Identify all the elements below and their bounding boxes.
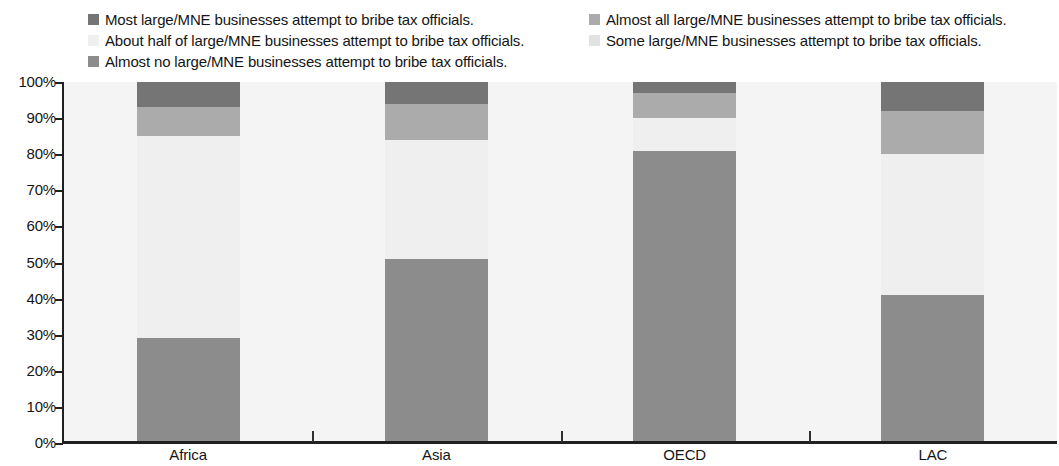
legend-column-left: Most large/MNE businesses attempt to bri… (88, 9, 524, 72)
y-axis-tick-label: 40% (0, 291, 56, 306)
bar-segment-most[interactable] (633, 82, 736, 93)
bar-segment-almost_all[interactable] (881, 111, 984, 154)
bar-segment-about_half[interactable] (881, 154, 984, 295)
legend-item-label: Almost no large/MNE businesses attempt t… (105, 51, 507, 72)
bar-group-oecd[interactable] (633, 82, 736, 443)
legend-swatch-icon-about_half (88, 35, 99, 46)
legend-item-label: Some large/MNE businesses attempt to bri… (606, 30, 982, 51)
bar-stack (633, 82, 736, 443)
legend-item-label: About half of large/MNE businesses attem… (105, 30, 524, 51)
x-axis-category-label-asia: Asia (356, 446, 516, 464)
legend-item-almost_no[interactable]: Almost no large/MNE businesses attempt t… (88, 51, 524, 72)
legend-swatch-icon-almost_all (589, 14, 600, 25)
legend-column-right: Almost all large/MNE businesses attempt … (589, 9, 1006, 51)
legend-swatch-icon-almost_no (88, 56, 99, 67)
bar-group-africa[interactable] (137, 82, 240, 443)
x-axis-tick-mark (312, 431, 314, 442)
bar-segment-almost_all[interactable] (385, 104, 488, 140)
legend-item-about_half[interactable]: About half of large/MNE businesses attem… (88, 30, 524, 51)
y-axis-tick-label: 90% (0, 110, 56, 125)
bar-segment-almost_no[interactable] (633, 151, 736, 443)
bar-stack (385, 82, 488, 443)
bar-segment-about_half[interactable] (633, 118, 736, 150)
bar-segment-almost_all[interactable] (633, 93, 736, 118)
y-axis-tick-label: 20% (0, 363, 56, 378)
legend-item-label: Almost all large/MNE businesses attempt … (606, 9, 1006, 30)
y-axis-tick-label: 30% (0, 327, 56, 342)
legend-item-some[interactable]: Some large/MNE businesses attempt to bri… (589, 30, 1006, 51)
x-axis-tick-mark (561, 431, 563, 442)
bar-segment-most[interactable] (881, 82, 984, 111)
plot-area (64, 82, 1057, 443)
x-axis-category-label-lac: LAC (853, 446, 1013, 464)
bar-segment-about_half[interactable] (137, 136, 240, 338)
x-axis-category-label-africa: Africa (108, 446, 268, 464)
bar-stack (881, 82, 984, 443)
legend-swatch-icon-most (88, 14, 99, 25)
y-axis-tick-label: 70% (0, 182, 56, 197)
bar-segment-most[interactable] (137, 82, 240, 107)
y-axis-tick-label: 100% (0, 74, 56, 89)
bar-segment-almost_all[interactable] (137, 107, 240, 136)
x-axis-category-label-oecd: OECD (605, 446, 765, 464)
y-axis-labels: 100%90%80%70%60%50%40%30%20%10%0% (0, 72, 56, 466)
legend-item-almost_all[interactable]: Almost all large/MNE businesses attempt … (589, 9, 1006, 30)
bar-stack (137, 82, 240, 443)
bar-segment-almost_no[interactable] (881, 295, 984, 443)
y-axis-tick-label: 60% (0, 218, 56, 233)
bar-segment-almost_no[interactable] (137, 338, 240, 443)
y-axis-tick-label: 80% (0, 146, 56, 161)
y-axis-tick-label: 50% (0, 255, 56, 270)
bar-segment-about_half[interactable] (385, 140, 488, 259)
bar-group-asia[interactable] (385, 82, 488, 443)
bar-segment-most[interactable] (385, 82, 488, 104)
legend-item-label: Most large/MNE businesses attempt to bri… (105, 9, 474, 30)
x-axis-line (62, 441, 1057, 444)
y-axis-tick-label: 10% (0, 399, 56, 414)
legend-item-most[interactable]: Most large/MNE businesses attempt to bri… (88, 9, 524, 30)
stacked-bar-chart: 100%90%80%70%60%50%40%30%20%10%0% Africa… (0, 72, 1059, 466)
chart-legend: Most large/MNE businesses attempt to bri… (0, 0, 1059, 72)
x-axis-labels: AfricaAsiaOECDLAC (0, 446, 1059, 466)
x-axis-tick-mark (809, 431, 811, 442)
bar-group-lac[interactable] (881, 82, 984, 443)
bar-segment-almost_no[interactable] (385, 259, 488, 443)
legend-swatch-icon-some (589, 35, 600, 46)
